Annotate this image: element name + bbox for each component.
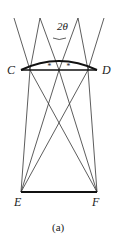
point-label-E: E <box>14 196 21 208</box>
figure-caption: (a) <box>52 222 64 233</box>
point-label-D: D <box>102 64 111 76</box>
lens-arc <box>21 61 97 70</box>
rays-from-F <box>14 18 97 192</box>
lens-mark-left: * <box>47 63 51 71</box>
point-label-C: C <box>7 64 15 76</box>
angle-arc <box>53 38 66 40</box>
lens-mark-right: * <box>66 63 70 71</box>
point-label-F: F <box>92 196 99 208</box>
angle-label: 2θ <box>57 21 68 32</box>
rays-from-E <box>21 18 104 192</box>
